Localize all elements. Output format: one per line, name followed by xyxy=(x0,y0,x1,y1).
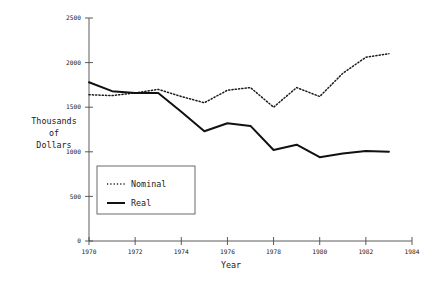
y-axis-title-line-1: Thousands xyxy=(31,116,76,126)
x-tick-label: 1978 xyxy=(266,248,281,255)
x-tick-label: 1974 xyxy=(174,248,189,255)
series-line-nominal xyxy=(89,54,389,108)
series-line-real xyxy=(89,82,389,157)
y-axis: 05001000150020002500 xyxy=(66,14,93,244)
y-axis-title-line-3: Dollars xyxy=(36,140,71,150)
x-tick-label: 1970 xyxy=(82,248,97,255)
y-tick-label: 2500 xyxy=(66,14,81,21)
x-tick-group: 19701972197419761978198019821984 xyxy=(82,237,420,255)
x-axis: 19701972197419761978198019821984 xyxy=(82,237,420,255)
x-tick-label: 1972 xyxy=(128,248,143,255)
y-axis-title: Thousands of Dollars xyxy=(31,116,76,150)
y-tick-label: 0 xyxy=(77,237,81,244)
legend: Nominal Real xyxy=(97,166,195,214)
legend-label-real: Real xyxy=(131,198,151,208)
line-chart: 05001000150020002500 1970197219741976197… xyxy=(0,0,436,281)
x-tick-label: 1976 xyxy=(220,248,235,255)
x-tick-label: 1982 xyxy=(358,248,373,255)
y-tick-label: 2000 xyxy=(66,59,81,66)
x-axis-title: Year xyxy=(221,260,241,270)
y-axis-title-line-2: of xyxy=(49,128,59,138)
x-tick-label: 1980 xyxy=(312,248,327,255)
legend-label-nominal: Nominal xyxy=(131,179,166,189)
x-tick-label: 1984 xyxy=(405,248,420,255)
y-tick-label: 500 xyxy=(70,193,81,200)
y-tick-label: 1500 xyxy=(66,103,81,110)
